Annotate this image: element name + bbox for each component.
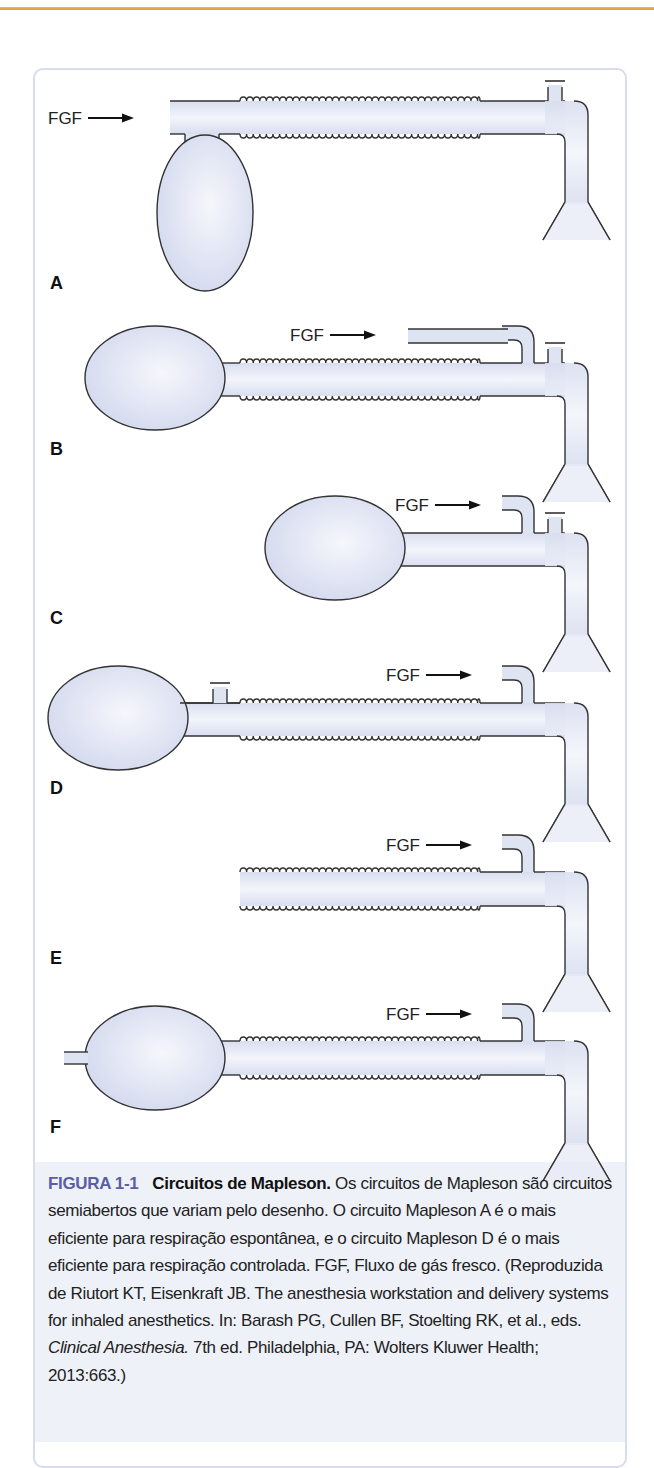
panel-label: F	[50, 1117, 61, 1137]
tube-fill	[395, 533, 565, 566]
corrugated-tube-bottom	[240, 1075, 480, 1079]
elbow-fill	[545, 533, 588, 636]
panel-e: FGFE	[50, 835, 610, 1012]
fgf-inlet-fill	[502, 496, 534, 533]
panel-d: FGFD	[48, 666, 610, 842]
fgf-inlet-inner	[502, 510, 522, 533]
fgf-inlet-fill	[502, 1004, 534, 1041]
panel-label: B	[50, 439, 63, 459]
corrugated-tube-top	[240, 359, 480, 363]
corrugated-tube-bottom	[240, 906, 480, 910]
caption-book-title: Clinical Anesthesia.	[48, 1338, 189, 1357]
figure-caption: FIGURA 1-1Circuitos de Mapleson. Os circ…	[48, 1170, 618, 1389]
panel-c: FGFC	[50, 496, 610, 672]
fgf-inlet-inner	[502, 1018, 522, 1041]
reservoir-bag	[48, 666, 188, 770]
fgf-label: FGF	[386, 666, 420, 685]
fgf-label: FGF	[395, 496, 429, 515]
corrugated-tube-top	[240, 699, 480, 703]
arrow-head-icon	[364, 331, 376, 340]
fgf-label: FGF	[386, 1005, 420, 1024]
fgf-label: FGF	[48, 109, 82, 128]
apl-valve-fill	[548, 85, 562, 101]
fgf-label: FGF	[386, 836, 420, 855]
corrugated-tube-bottom	[240, 396, 480, 400]
panel-label: D	[50, 778, 63, 798]
fgf-inlet-inner	[502, 849, 522, 872]
face-mask	[543, 202, 610, 240]
elbow-fill	[545, 101, 588, 204]
reservoir-bag	[265, 496, 405, 600]
arrow-head-icon	[460, 841, 472, 850]
elbow-fill	[545, 872, 588, 976]
tube-fill	[170, 101, 565, 134]
corrugated-tube-top	[240, 97, 480, 101]
reservoir-bag	[85, 1006, 225, 1110]
apl-valve-fill	[213, 687, 227, 703]
elbow-fill	[545, 1041, 588, 1145]
bag-tail-fill	[64, 1052, 88, 1064]
figure-number: FIGURA 1-1	[48, 1174, 138, 1193]
elbow-fill	[545, 703, 588, 806]
arrow-head-icon	[460, 1010, 472, 1019]
arrow-head-icon	[122, 114, 134, 123]
fgf-label: FGF	[290, 326, 324, 345]
face-mask	[543, 804, 610, 842]
panel-b: FGFB	[50, 326, 610, 502]
tube-fill	[240, 872, 565, 906]
panel-a: FGFA	[48, 81, 610, 293]
arrow-head-icon	[469, 501, 481, 510]
fgf-inlet-fill	[502, 666, 534, 703]
tube-fill	[215, 1041, 565, 1075]
corrugated-tube-top	[240, 1037, 480, 1041]
fgf-feed-pipe-fill	[408, 329, 508, 343]
fgf-inlet-inner	[502, 680, 522, 703]
panel-label: A	[50, 273, 63, 293]
panel-label: C	[50, 608, 63, 628]
tube-fill	[215, 363, 565, 396]
face-mask	[543, 464, 610, 502]
face-mask	[543, 634, 610, 672]
figure-title: Circuitos de Mapleson.	[152, 1174, 330, 1193]
caption-body: Os circuitos de Mapleson são circuitos s…	[48, 1174, 612, 1330]
apl-valve-fill	[548, 347, 562, 363]
apl-valve-fill	[548, 517, 562, 533]
corrugated-tube-bottom	[240, 134, 480, 138]
panel-label: E	[50, 948, 62, 968]
fgf-inlet-fill	[502, 835, 534, 872]
elbow-fill	[545, 363, 588, 466]
reservoir-bag	[157, 135, 253, 291]
face-mask	[543, 974, 610, 1012]
tube-fill	[180, 703, 565, 736]
corrugated-tube-bottom	[240, 736, 480, 740]
panel-f: FGFF	[50, 1004, 610, 1181]
arrow-head-icon	[460, 671, 472, 680]
reservoir-bag	[85, 326, 225, 430]
corrugated-tube-top	[240, 868, 480, 872]
